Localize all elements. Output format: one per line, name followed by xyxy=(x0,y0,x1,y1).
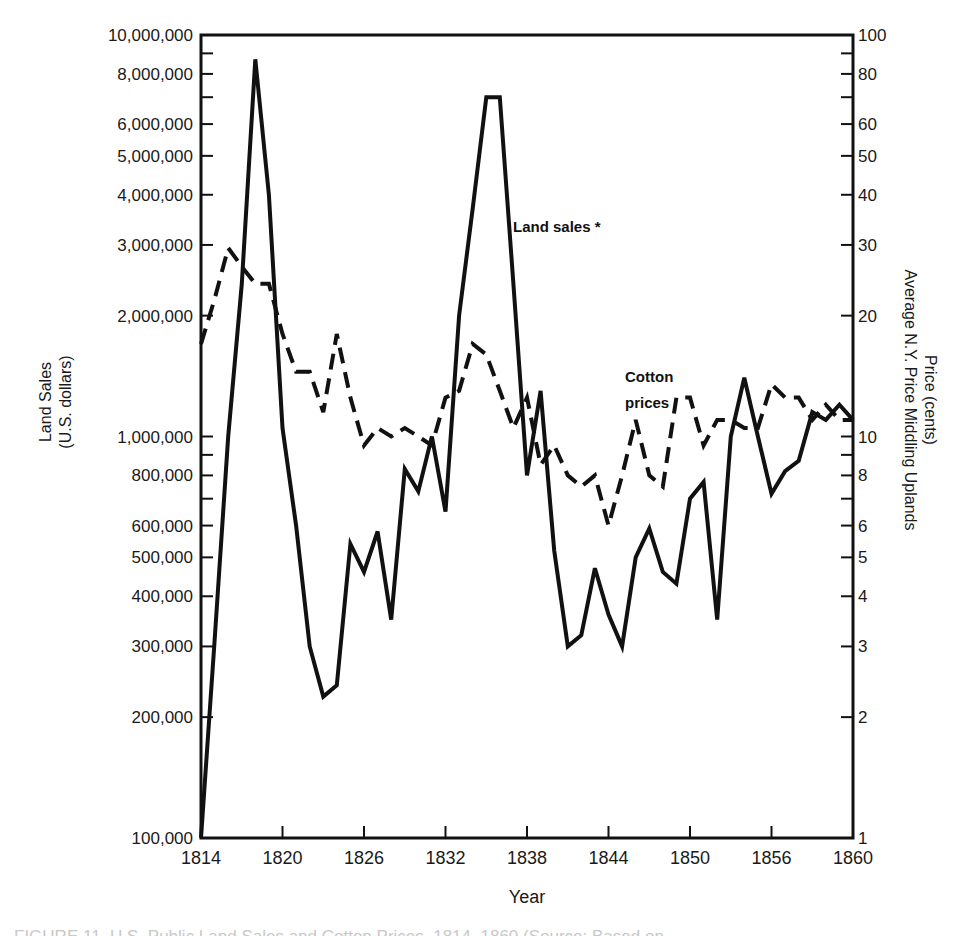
left-tick-label: 3,000,000 xyxy=(117,236,193,255)
cotton-annotation-line2: prices xyxy=(625,394,669,411)
dual-axis-log-line-chart: 10,000,0008,000,0006,000,0005,000,0004,0… xyxy=(0,0,975,936)
left-tick-label: 400,000 xyxy=(132,587,193,606)
x-tick-label: 1850 xyxy=(670,848,710,868)
x-tick-label: 1856 xyxy=(751,848,791,868)
left-tick-label: 500,000 xyxy=(132,548,193,567)
x-tick-label: 1844 xyxy=(588,848,628,868)
x-tick-label: 1826 xyxy=(344,848,384,868)
left-tick-label: 2,000,000 xyxy=(117,307,193,326)
right-tick-label: 60 xyxy=(858,115,877,134)
right-tick-label: 5 xyxy=(858,548,867,567)
right-tick-label: 30 xyxy=(858,236,877,255)
left-tick-label: 6,000,000 xyxy=(117,115,193,134)
x-axis-title: Year xyxy=(509,887,545,907)
left-tick-label: 300,000 xyxy=(132,637,193,656)
left-tick-label: 5,000,000 xyxy=(117,147,193,166)
cotton-annotation-line1: Cotton xyxy=(625,368,673,385)
left-tick-label: 800,000 xyxy=(132,466,193,485)
series-land-sales xyxy=(201,59,853,838)
x-tick-label: 1832 xyxy=(425,848,465,868)
right-y-axis-ticks: 100806050403020108654321 xyxy=(841,26,886,848)
right-tick-label: 50 xyxy=(858,147,877,166)
left-y-axis-ticks: 10,000,0008,000,0006,000,0005,000,0004,0… xyxy=(108,26,213,848)
cotton-prices-line xyxy=(201,248,853,526)
figure-caption: FIGURE 11. U.S. Public Land Sales and Co… xyxy=(14,922,964,936)
plot-frame xyxy=(201,35,853,838)
right-tick-label: 3 xyxy=(858,637,867,656)
left-tick-label: 4,000,000 xyxy=(117,186,193,205)
land-sales-line xyxy=(201,59,853,838)
right-tick-label: 40 xyxy=(858,186,877,205)
left-tick-label: 600,000 xyxy=(132,517,193,536)
series-cotton-prices xyxy=(201,248,853,526)
plot-area-border xyxy=(201,35,853,838)
right-tick-label: 1 xyxy=(858,829,867,848)
left-tick-label: 10,000,000 xyxy=(108,26,193,45)
land-sales-annotation: Land sales * xyxy=(513,218,601,235)
right-tick-label: 20 xyxy=(858,307,877,326)
x-tick-label: 1814 xyxy=(181,848,221,868)
x-tick-label: 1838 xyxy=(507,848,547,868)
left-tick-label: 100,000 xyxy=(132,829,193,848)
right-tick-label: 2 xyxy=(858,708,867,727)
x-tick-label: 1820 xyxy=(262,848,302,868)
left-tick-label: 8,000,000 xyxy=(117,65,193,84)
right-tick-label: 4 xyxy=(858,587,867,606)
left-y-axis-title-line1: Land Sales xyxy=(37,362,54,442)
x-tick-label: 1860 xyxy=(833,848,873,868)
x-axis-ticks: 181418201826183218381844185018561860 xyxy=(181,826,873,868)
right-tick-label: 100 xyxy=(858,26,886,45)
right-tick-label: 8 xyxy=(858,466,867,485)
left-tick-label: 200,000 xyxy=(132,708,193,727)
right-y-axis-title-line1: Price (cents) xyxy=(922,355,939,445)
right-tick-label: 80 xyxy=(858,65,877,84)
right-y-axis-title-line2: Average N.Y. Price Middling Uplands xyxy=(902,270,919,531)
right-tick-label: 6 xyxy=(858,517,867,536)
left-tick-label: 1,000,000 xyxy=(117,428,193,447)
right-tick-label: 10 xyxy=(858,428,877,447)
left-y-axis-title-line2: (U.S. dollars) xyxy=(57,355,74,448)
